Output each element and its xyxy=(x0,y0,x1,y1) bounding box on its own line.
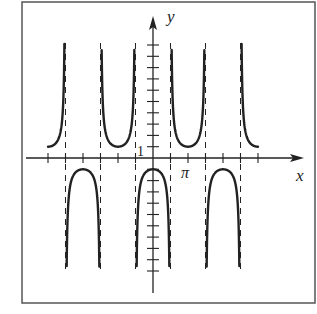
chart-figure: x y 1 π xyxy=(0,0,317,314)
x-axis-label: x xyxy=(295,166,304,185)
y-axis xyxy=(147,16,159,293)
x-tick-label-pi: π xyxy=(181,164,190,181)
y-axis-label: y xyxy=(165,7,175,26)
y-tick-label-1: 1 xyxy=(137,144,144,159)
x-axis xyxy=(26,153,304,163)
